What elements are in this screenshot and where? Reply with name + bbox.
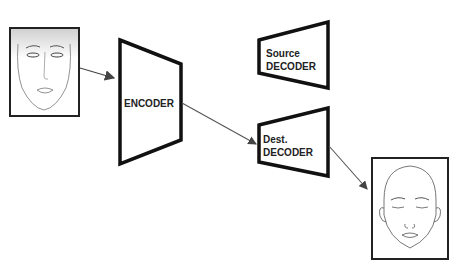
dest-decoder-line1: Dest.: [263, 133, 313, 146]
source-decoder-line1: Source: [266, 47, 316, 60]
source-decoder-line2: DECODER: [266, 60, 316, 73]
arrow-dest-decoder-to-face: [329, 146, 367, 189]
dest-decoder-label: Dest. DECODER: [263, 133, 313, 159]
dest-face-image: [372, 158, 448, 259]
encoder-label: ENCODER: [124, 97, 174, 110]
diagram-canvas: [0, 0, 458, 271]
arrow-encoder-to-dest-decoder: [182, 103, 256, 144]
source-decoder-label: Source DECODER: [266, 47, 316, 73]
source-face-image: [10, 28, 79, 116]
dest-decoder-line2: DECODER: [263, 146, 313, 159]
arrow-face-to-encoder: [80, 68, 114, 78]
